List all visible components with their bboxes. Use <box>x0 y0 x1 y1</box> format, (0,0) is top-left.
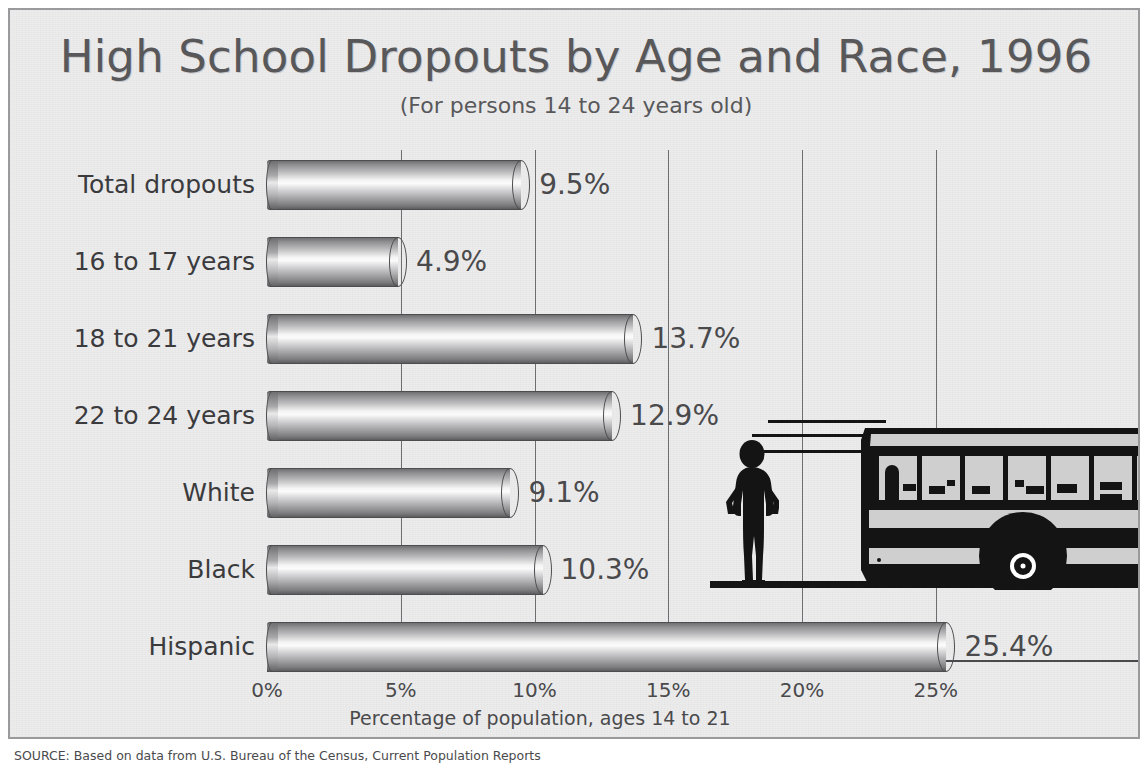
bar-end-cap <box>512 160 530 210</box>
value-label: 9.1% <box>528 476 599 509</box>
x-tick-label: 10% <box>495 678 575 702</box>
x-tick-label: 0% <box>227 678 307 702</box>
bar-end-cap <box>534 545 552 595</box>
value-label: 12.9% <box>630 399 719 432</box>
category-label: Total dropouts <box>20 170 255 199</box>
bar-end-cap <box>624 314 642 364</box>
category-label: 22 to 24 years <box>20 401 255 430</box>
value-label: 13.7% <box>651 322 740 355</box>
bar-start-cap <box>266 237 278 287</box>
value-label: 4.9% <box>416 245 487 278</box>
bar-end-cap <box>389 237 407 287</box>
x-tick-label: 15% <box>628 678 708 702</box>
category-label: White <box>20 478 255 507</box>
bar-start-cap <box>266 391 278 441</box>
x-tick-label: 20% <box>762 678 842 702</box>
school-bus-silhouette-icon <box>855 410 1140 590</box>
value-label: 25.4% <box>964 630 1053 663</box>
bar-start-cap <box>266 622 278 672</box>
bar <box>267 622 946 672</box>
bar <box>267 237 398 287</box>
source-note: SOURCE: Based on data from U.S. Bureau o… <box>14 748 541 763</box>
plot-area: Total dropouts9.5%16 to 17 years4.9%18 t… <box>10 10 1140 739</box>
category-label: 18 to 21 years <box>20 324 255 353</box>
bar-start-cap <box>266 160 278 210</box>
bar <box>267 314 633 364</box>
bar <box>267 468 510 518</box>
bar-start-cap <box>266 468 278 518</box>
x-axis-title: Percentage of population, ages 14 to 21 <box>10 707 1070 729</box>
bar-end-cap <box>501 468 519 518</box>
category-label: 16 to 17 years <box>20 247 255 276</box>
bar-end-cap <box>603 391 621 441</box>
category-label: Black <box>20 555 255 584</box>
bar-start-cap <box>266 314 278 364</box>
bar-start-cap <box>266 545 278 595</box>
x-tick-label: 5% <box>361 678 441 702</box>
bar <box>267 391 612 441</box>
bar <box>267 545 543 595</box>
value-label: 9.5% <box>539 168 610 201</box>
chart-image: High School Dropouts by Age and Race, 19… <box>0 0 1148 765</box>
chart-panel: High School Dropouts by Age and Race, 19… <box>8 8 1140 739</box>
bar <box>267 160 521 210</box>
bar-end-cap <box>937 622 955 672</box>
person-silhouette-icon <box>723 440 779 585</box>
value-label: 10.3% <box>561 553 650 586</box>
category-label: Hispanic <box>20 632 255 661</box>
x-tick-label: 25% <box>896 678 976 702</box>
